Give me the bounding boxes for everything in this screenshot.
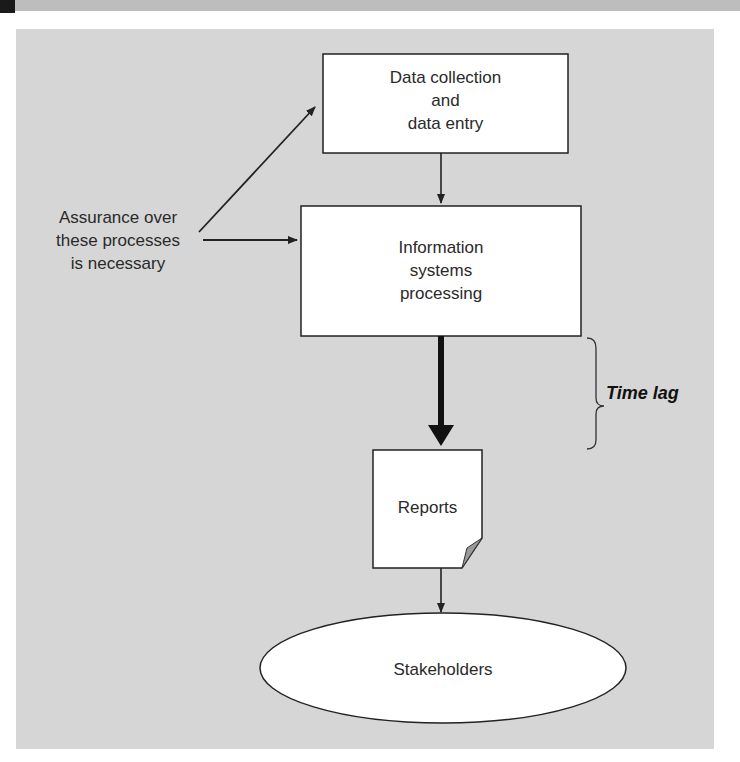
data-collection-label: Data collection and data entry (323, 66, 568, 135)
label-line: systems (301, 259, 581, 282)
time-lag-label: Time lag (606, 382, 706, 405)
label-line: these processes (28, 229, 208, 252)
is-processing-label: Information systems processing (301, 236, 581, 305)
thick-arrowhead-icon (428, 425, 454, 446)
label-line: and (323, 89, 568, 112)
reports-label: Reports (373, 496, 482, 519)
assurance-label: Assurance over these processes is necess… (28, 206, 208, 275)
label-line: Data collection (323, 66, 568, 89)
label-line: Assurance over (28, 206, 208, 229)
label-line: Information (301, 236, 581, 259)
label-line: data entry (323, 112, 568, 135)
arrow-assurance-to-collection (199, 107, 315, 232)
time-lag-brace (587, 338, 604, 449)
label-line: is necessary (28, 252, 208, 275)
stakeholders-label: Stakeholders (300, 658, 586, 681)
label-line: processing (301, 282, 581, 305)
